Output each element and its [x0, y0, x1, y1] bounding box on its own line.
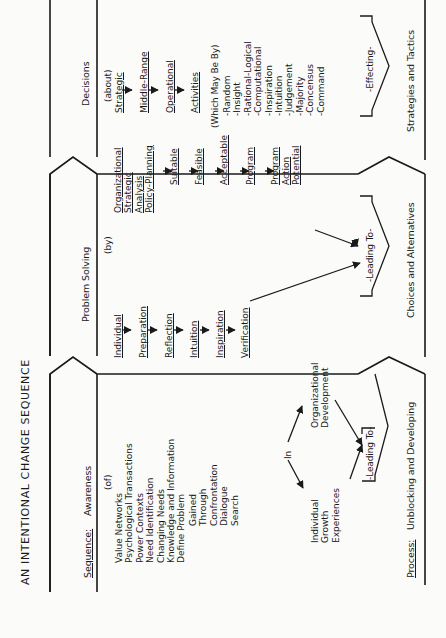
awareness-item: Power Contexts	[135, 439, 145, 563]
chain-step: Program	[245, 135, 255, 213]
awareness-item: Define Problem	[176, 439, 186, 563]
gained-item: Confrontation	[209, 464, 219, 536]
individual-growth-line: Growth	[320, 488, 330, 543]
method-item: -Insight	[232, 41, 242, 116]
method-item: -Random	[222, 41, 232, 116]
chain-step: Verification	[240, 306, 250, 358]
decision-level: Operational	[165, 51, 175, 113]
effecting-label: -Effecting-	[365, 47, 376, 92]
gained-item: Gained	[188, 464, 198, 536]
chain-step: Feasible	[194, 135, 204, 213]
decision-level: Middle-Range	[139, 51, 149, 113]
chain-step: Preparation	[138, 306, 148, 358]
decisions-header: Decisions	[80, 62, 91, 107]
process-label: Process:	[405, 540, 416, 578]
organizational-development: Organizational Development	[310, 362, 331, 428]
chain-step: Suitable	[169, 135, 179, 213]
chain-step: Strategic	[123, 135, 133, 213]
rotated-page: AN INTENTIONAL CHANGE SEQUENCE Sequence:…	[0, 0, 446, 638]
awareness-header: Awareness	[82, 466, 93, 516]
chain-step: Inspiration	[215, 306, 225, 358]
awareness-item: Psychological Transactions	[124, 439, 134, 563]
awareness-item: Changing Needs	[156, 439, 166, 563]
decisions-qualifier: (about)	[103, 70, 114, 102]
chain-step: Policy-Planning	[144, 135, 154, 213]
method-item: -Concensus	[305, 41, 315, 116]
chain-step: Individual	[113, 306, 123, 358]
awareness-item: Need Identification	[145, 439, 155, 563]
gained-item: Search	[230, 464, 240, 536]
chain-step: Organizational	[113, 135, 123, 213]
strategies-tactics: Strategies and Tactics	[405, 30, 416, 132]
awareness-item: Value Networks	[114, 439, 124, 563]
methods-list: -Random -Insight -Rational-Logical -Comp…	[222, 41, 326, 116]
decisions-chain: Strategic Middle-Range Operational Activ…	[114, 51, 201, 113]
gained-item: Through	[198, 464, 208, 536]
individual-chain: Individual Preparation Reflection Intuit…	[113, 306, 250, 358]
chain-step: Acceptable	[219, 135, 229, 213]
awareness-leading-to: -Leading To-	[365, 427, 376, 480]
chain-step: Analysis	[134, 135, 144, 213]
decision-level: Activities	[190, 51, 200, 113]
diagram-title: AN INTENTIONAL CHANGE SEQUENCE	[20, 359, 31, 585]
method-item: -Intuition	[274, 41, 284, 116]
awareness-list: Value Networks Psychological Transaction…	[114, 439, 187, 563]
chain-step: Intuition	[189, 306, 199, 358]
sequence-label: Sequence:	[82, 529, 93, 578]
organizational-chain: Organizational Strategic Analysis Policy…	[113, 135, 301, 213]
org-dev-line: Organizational	[310, 362, 320, 428]
methods-label: (Which May Be By)	[210, 45, 221, 128]
in-label: In	[283, 451, 294, 459]
individual-growth-line: Experiences	[331, 488, 341, 543]
problem-solving-leading-to: -Leading To-	[365, 229, 376, 282]
individual-growth-line: Individual	[310, 488, 320, 543]
individual-growth: Individual Growth Experiences	[310, 488, 341, 543]
awareness-qualifier: (of)	[103, 475, 114, 490]
gained-list: Gained Through Confrontation Dialogue Se…	[188, 464, 240, 536]
chain-step: Action	[281, 135, 291, 213]
chain-step: Reflection	[164, 306, 174, 358]
method-item: -Computational	[253, 41, 263, 116]
chain-step: Potential	[291, 135, 301, 213]
method-item: -Inspiration	[264, 41, 274, 116]
method-item: -Majority	[295, 41, 305, 116]
gained-item: Dialogue	[219, 464, 229, 536]
awareness-item: Knowledge and Information	[166, 439, 176, 563]
chain-step: Program	[270, 135, 280, 213]
problem-solving-header: Problem Solving	[80, 247, 91, 322]
choices-alternatives: Choices and Alternatives	[405, 202, 416, 318]
problem-solving-qualifier: (by)	[103, 236, 114, 254]
process-value: Unblocking and Developing	[405, 402, 416, 530]
decision-level: Strategic	[114, 51, 124, 113]
org-dev-line: Development	[320, 362, 330, 428]
method-item: -Command	[316, 41, 326, 116]
method-item: -Rational-Logical	[243, 41, 253, 116]
method-item: -Judgement	[284, 41, 294, 116]
